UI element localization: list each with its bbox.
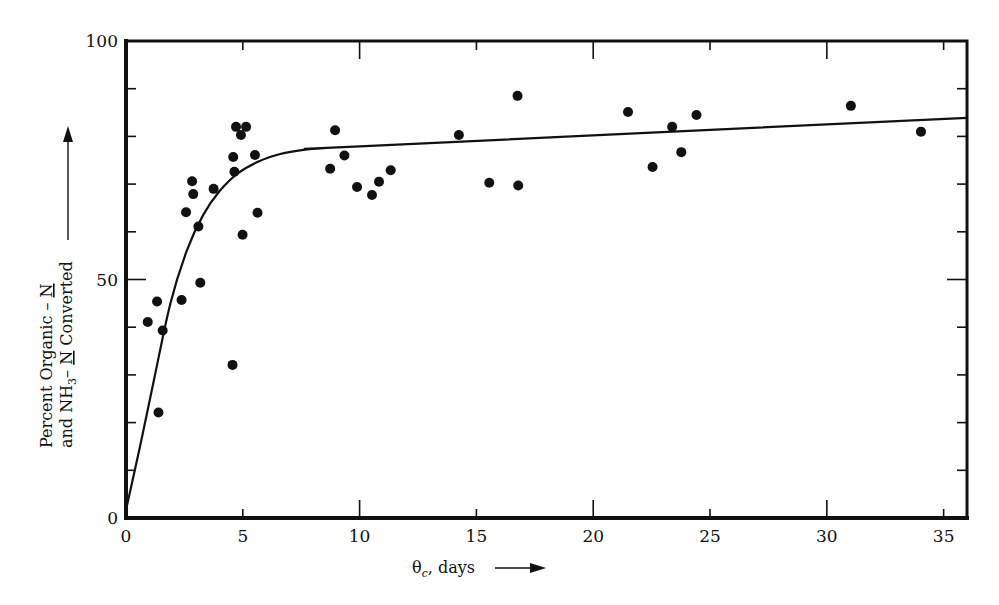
data-point [325,164,335,174]
plot-border [126,41,967,518]
x-tick-label: 15 [466,526,488,546]
x-tick-label: 0 [121,526,132,546]
y-tick-label: 50 [96,270,118,290]
plot-frame [124,39,969,520]
fitted-curve [126,118,967,510]
data-point [153,408,163,418]
data-point [367,190,377,200]
data-point [454,130,464,140]
data-point [916,127,926,137]
y-axis-arrow-icon [63,126,73,240]
data-point [648,162,658,172]
data-point [339,150,349,160]
y-axis-label-line2: and NH3– N Converted [57,261,79,448]
data-point [513,181,523,191]
data-point [676,147,686,157]
data-points-layer [143,91,926,418]
y-axis-label: Percent Organic – N and NH3– N Converted [37,126,79,448]
fitted-curve-layer [126,118,967,510]
x-tick-label: 10 [349,526,371,546]
data-point [238,230,248,240]
x-tick-label: 20 [582,526,604,546]
x-axis-label-theta: θ [412,558,422,577]
data-point [228,360,238,370]
data-point [188,189,198,199]
data-point [228,152,238,162]
data-point [181,207,191,217]
data-point [187,176,197,186]
data-point [253,208,263,218]
data-point [330,125,340,135]
data-point [374,177,384,187]
data-point [195,278,205,288]
x-tick-label: 35 [933,526,955,546]
data-point [236,130,246,140]
x-axis-label: θc, days [412,558,546,580]
svg-text:θc, days: θc, days [412,558,475,580]
data-point [352,182,362,192]
data-point [250,150,260,160]
x-tick-label: 25 [699,526,721,546]
tick-labels: 05101520253035050100 [86,31,955,546]
data-point [209,184,219,194]
x-axis-label-rest: , days [428,558,475,577]
axis-ticks [126,41,967,518]
y-tick-label: 100 [86,31,118,51]
data-point [691,110,701,120]
data-point [143,317,153,327]
data-point [386,165,396,175]
data-point [623,107,633,117]
x-tick-label: 5 [237,526,248,546]
data-point [177,295,187,305]
data-point [513,91,523,101]
data-point [152,296,162,306]
y-tick-label: 0 [107,508,118,528]
data-point [484,178,494,188]
y-axis-label-line1: Percent Organic – N [37,283,56,448]
data-point [229,167,239,177]
x-axis-arrow-icon [495,563,546,573]
data-point [158,326,168,336]
x-tick-label: 30 [816,526,838,546]
chart: 05101520253035050100 θc, days Percent Or… [0,0,999,605]
data-point [846,101,856,111]
data-point [667,122,677,132]
data-point [193,222,203,232]
